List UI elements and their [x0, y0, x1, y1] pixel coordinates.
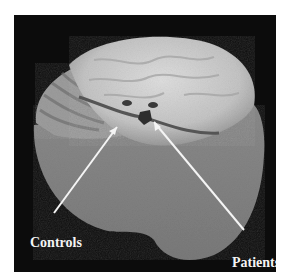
ventricle-right: [148, 102, 158, 108]
label-controls: Controls: [30, 235, 82, 251]
brain-render: [14, 15, 276, 272]
label-patients: Patients: [232, 255, 276, 271]
brain-render-panel: Controls Patients: [14, 15, 276, 272]
ventricle-left: [122, 100, 132, 106]
